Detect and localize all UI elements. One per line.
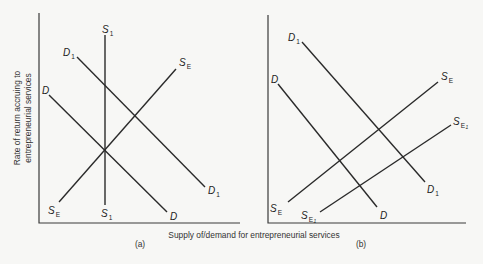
curve-a-D1: [77, 57, 205, 187]
label-b-SE1-bottom: SE1: [301, 210, 317, 224]
curve-a-D: [49, 95, 167, 212]
label-b-D1-bottom: D1: [427, 184, 439, 197]
label-a-SE-bottom: SE: [48, 205, 61, 218]
label-b-D1-top: D1: [288, 32, 300, 45]
label-a-S1-top: S1: [102, 24, 114, 37]
curve-b-D1: [302, 42, 425, 182]
curve-a-SE: [59, 69, 176, 202]
label-b-D-top: D: [271, 74, 278, 85]
label-a-D1-top: D1: [63, 47, 75, 60]
panel-a: S1 S1 D1 D1 SE SE D D (a): [39, 13, 240, 249]
label-b-D-bottom: D: [380, 210, 387, 221]
label-b-SE-top: SE: [441, 71, 454, 84]
y-axis-label: Rate of return accruing to entrepreneuri…: [12, 70, 33, 165]
label-b-SE1-top: SE1: [453, 116, 469, 130]
label-a-SE-top: SE: [179, 57, 192, 70]
panel-b: D1 D1 D D SE SE SE1 SE1 (b): [268, 15, 469, 249]
panel-b-caption: (b): [356, 239, 366, 249]
label-a-D1-bottom: D1: [208, 185, 220, 198]
label-a-D-top: D: [42, 85, 49, 96]
x-axis-label: Supply of/demand for entrepreneurial ser…: [168, 230, 339, 240]
label-b-SE-bottom: SE: [270, 203, 283, 216]
label-a-S1-bottom: S1: [101, 208, 113, 221]
y-axis-label-line1: Rate of return accruing to: [12, 70, 22, 165]
y-axis-label-line2: entrepreneurial services: [23, 73, 33, 162]
supply-demand-diagram: Rate of return accruing to entrepreneuri…: [0, 0, 483, 264]
label-a-D-bottom: D: [170, 211, 177, 222]
panel-a-caption: (a): [135, 239, 145, 249]
curve-b-D: [278, 84, 377, 207]
